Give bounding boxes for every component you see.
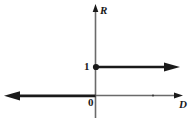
closed-endpoint-dot bbox=[93, 64, 99, 70]
r-axis-arrowhead bbox=[93, 4, 99, 12]
graph-figure: R D 1 0 bbox=[0, 0, 194, 124]
r-axis-label: R bbox=[100, 5, 107, 16]
d-axis-label: D bbox=[179, 99, 187, 110]
d-axis-group bbox=[96, 92, 184, 98]
coordinate-plane-svg bbox=[0, 0, 194, 124]
branch-negative-arrowhead bbox=[4, 91, 20, 100]
branch-nonnegative-arrowhead bbox=[164, 62, 180, 71]
branch-negative-group bbox=[4, 91, 96, 100]
d-axis-minor-tick bbox=[152, 94, 154, 96]
origin-label-zero: 0 bbox=[88, 97, 94, 108]
branch-nonnegative-group bbox=[93, 62, 180, 71]
r-axis-tick-label-one: 1 bbox=[84, 61, 90, 72]
